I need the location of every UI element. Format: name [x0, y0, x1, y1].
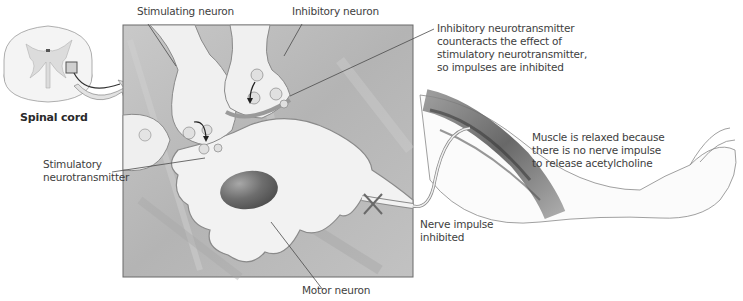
label-stimulating-neuron: Stimulating neuron	[137, 5, 234, 18]
spinal-cord-illustration	[4, 26, 132, 102]
synapse-panel	[123, 25, 413, 277]
label-stimulatory-neurotransmitter: Stimulatory neurotransmitter	[43, 158, 129, 184]
label-muscle-relaxed: Muscle is relaxed because there is no ne…	[532, 131, 665, 170]
label-spinal-cord: Spinal cord	[20, 111, 88, 124]
label-inhibitory-neurotransmitter: Inhibitory neurotransmitter counteracts …	[437, 22, 587, 74]
label-nerve-impulse-inhibited: Nerve impulse inhibited	[420, 218, 493, 244]
label-motor-neuron: Motor neuron	[302, 284, 370, 297]
label-inhibitory-neuron: Inhibitory neuron	[292, 5, 379, 18]
